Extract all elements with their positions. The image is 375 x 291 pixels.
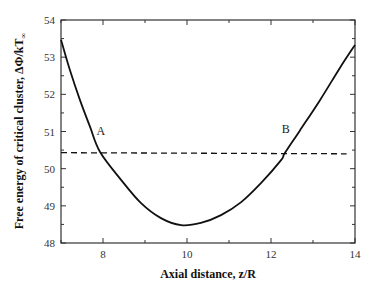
y-tick-label: 54 [44, 14, 56, 26]
x-tick-label: 14 [350, 248, 362, 260]
x-axis-ticks: 8101214 [61, 20, 361, 260]
x-axis-title: Axial distance, z/R [160, 267, 256, 281]
y-tick-label: 52 [44, 88, 55, 100]
y-tick-label: 49 [44, 200, 56, 212]
x-tick-label: 10 [182, 248, 194, 260]
y-axis-title: Free energy of critical cluster, ΔΦ/kT∞ [12, 32, 28, 229]
y-tick-label: 51 [44, 126, 55, 138]
y-axis-title-main: Free energy of critical cluster, ΔΦ/kT [12, 38, 26, 229]
x-tick-label: 8 [100, 248, 106, 260]
y-tick-label: 53 [44, 51, 56, 63]
y-axis-ticks: 48495051525354 [44, 14, 355, 249]
point-label-a: A [97, 124, 106, 138]
free-energy-chart: 48495051525354 8101214 AB Axial distance… [0, 0, 375, 291]
y-tick-label: 48 [44, 237, 56, 249]
point-label-b: B [282, 122, 290, 136]
x-tick-label: 12 [266, 248, 277, 260]
threshold-dashed-line [61, 153, 347, 154]
y-axis-title-subscript: ∞ [19, 32, 28, 38]
annotation-layer: AB [97, 122, 290, 138]
y-tick-label: 50 [44, 163, 56, 175]
